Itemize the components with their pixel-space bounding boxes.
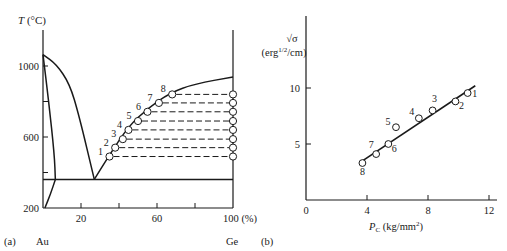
liquidus-point	[119, 136, 126, 143]
au-solidus-curve	[43, 55, 55, 180]
x-axis-label: PC (kg/mm2)	[368, 220, 423, 234]
liquidus-point	[169, 91, 176, 98]
point-label: 2	[459, 100, 464, 111]
point-label: 3	[111, 128, 116, 139]
ge-end-point	[229, 99, 236, 106]
au-solvus-curve	[45, 179, 55, 208]
scatter-axes: 51004812	[290, 16, 498, 216]
phase-diagram-axes: 20060010002060100 (%)	[18, 30, 258, 225]
point-label: 2	[104, 137, 109, 148]
fit-line	[361, 86, 475, 162]
liquidus-point	[134, 117, 141, 124]
y-tick-label: 5	[295, 139, 300, 150]
figure: 20060010002060100 (%) 12345678 T (°C) (a…	[0, 0, 507, 251]
scatter-markers: 12345678	[359, 88, 477, 177]
point-label: 8	[360, 166, 365, 177]
x-tick-label: 20	[76, 213, 87, 224]
y-axis-label-line2: (erg1/2/cm)	[262, 46, 307, 59]
liquidus-point	[112, 144, 119, 151]
point-label: 5	[385, 116, 390, 127]
liquidus-point	[106, 153, 113, 160]
y-tick-label: 1000	[18, 61, 39, 72]
ge-end-point	[229, 108, 236, 115]
ge-end-point	[229, 136, 236, 143]
ge-end-point	[229, 153, 236, 160]
y-tick-label: 10	[290, 83, 301, 94]
point-label: 1	[472, 88, 477, 99]
point-label: 3	[432, 93, 437, 104]
x-left-label-au: Au	[36, 236, 50, 247]
point-label: 6	[392, 143, 397, 154]
phase-diagram-panel: 20060010002060100 (%) 12345678 T (°C) (a…	[4, 14, 258, 248]
data-point	[373, 151, 380, 158]
scatter-panel: 51004812 12345678 √σ (erg1/2/cm) PC (kg/…	[261, 16, 497, 248]
liquidus-point	[155, 99, 162, 106]
linear-fit-line	[361, 86, 475, 162]
point-label: 4	[117, 119, 122, 130]
x-tick-label: 4	[364, 205, 370, 216]
ge-end-point	[229, 117, 236, 124]
panel-label-b: (b)	[261, 236, 274, 248]
phase-diagram-curves	[43, 55, 233, 208]
ge-end-point	[229, 126, 236, 133]
data-point	[464, 90, 471, 97]
data-point	[393, 124, 400, 131]
point-label: 8	[161, 83, 166, 94]
y-tick-label: 200	[23, 203, 39, 214]
data-point	[415, 115, 422, 122]
y-axis-label: T (°C)	[18, 14, 46, 27]
point-label: 6	[136, 101, 141, 112]
y-tick-label: 600	[23, 132, 39, 143]
x-tick-label: 12	[484, 205, 495, 216]
x-right-label-ge: Ge	[226, 236, 239, 247]
point-label: 7	[147, 92, 152, 103]
panel-label-a: (a)	[4, 236, 16, 248]
x-tick-label: 8	[425, 205, 430, 216]
liquidus-point	[125, 126, 132, 133]
data-point	[385, 141, 392, 148]
liquidus-point	[144, 108, 151, 115]
y-axis-label-line1: √σ	[286, 33, 298, 44]
x-tick-label: 60	[152, 213, 163, 224]
x-tick-label: 100 (%)	[223, 213, 258, 225]
point-label: 4	[409, 106, 414, 117]
ge-end-point	[229, 91, 236, 98]
point-label: 7	[369, 139, 374, 150]
x-tick-label: 0	[303, 205, 308, 216]
point-label: 5	[127, 110, 132, 121]
point-label: 1	[98, 146, 103, 157]
data-point	[429, 107, 436, 114]
data-point	[452, 98, 459, 105]
ge-end-point	[229, 144, 236, 151]
